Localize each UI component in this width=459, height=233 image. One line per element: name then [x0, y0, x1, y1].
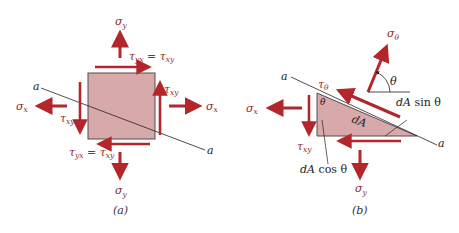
stress-element-square — [88, 73, 155, 139]
caption-b: (b) — [352, 204, 368, 217]
label-plane-a-1: a — [33, 80, 40, 93]
sigma-theta-arrow — [368, 48, 386, 92]
label-tau-bottom: τyx = τxy — [69, 146, 115, 160]
label-dA-cos-theta: dA cos θ — [300, 163, 347, 176]
label-sigma-x-right: σx — [206, 100, 219, 114]
label-sigma-y-bottom: σy — [115, 184, 128, 199]
panel-b: σθ θ τθ θ dA sin θ dA σx τxy dA cos θ σy… — [246, 27, 445, 217]
panel-a: σy τyx = τxy τxy σx σx τxy τyx = τxy σy … — [16, 15, 219, 217]
label-plane-a-2: a — [438, 137, 445, 150]
label-sigma-y-top: σy — [115, 15, 128, 30]
label-sigma-x-left: σx — [16, 100, 29, 114]
label-tau-xy-left: τxy — [60, 112, 75, 126]
label-plane-a-1: a — [281, 70, 288, 83]
label-theta-corner: θ — [320, 97, 326, 107]
label-dA-sin-theta: dA sin θ — [396, 96, 441, 109]
label-sigma-x: σx — [246, 102, 259, 116]
label-sigma-theta: σθ — [387, 27, 400, 42]
theta-arc — [376, 72, 390, 92]
stress-element-figure: σy τyx = τxy τxy σx σx τxy τyx = τxy σy … — [0, 0, 459, 233]
label-plane-a-2: a — [207, 144, 214, 157]
label-tau-top: τyx = τxy — [129, 50, 175, 64]
label-tau-xy: τxy — [297, 140, 312, 154]
label-theta-angle: θ — [390, 75, 397, 88]
label-sigma-y: σy — [355, 182, 368, 197]
label-tau-theta: τθ — [318, 78, 329, 92]
caption-a: (a) — [113, 204, 128, 217]
label-tau-xy-right: τxy — [164, 83, 179, 97]
